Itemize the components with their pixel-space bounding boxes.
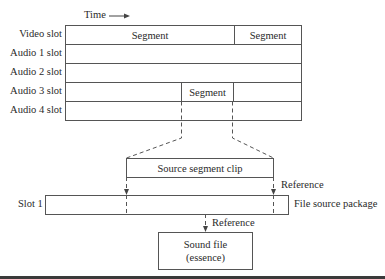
slot-label-audio-2: Audio 2 slot	[2, 67, 62, 78]
time-label: Time	[84, 10, 106, 21]
video-segment-2: Segment	[235, 26, 301, 44]
sound-file-title: Sound file	[184, 238, 227, 251]
audio-3-segment: Segment	[182, 83, 233, 101]
slot-label-audio-4: Audio 4 slot	[2, 105, 62, 116]
video-segment-1: Segment	[66, 26, 234, 44]
slot-label-video: Video slot	[2, 29, 62, 40]
sound-file-box: Sound file (essence)	[159, 233, 252, 269]
source-segment-clip: Source segment clip	[127, 159, 273, 177]
slot-1-label: Slot 1	[18, 199, 43, 210]
slot-label-audio-3: Audio 3 slot	[2, 86, 62, 97]
sound-file-subtitle: (essence)	[186, 251, 225, 264]
file-source-package-label: File source package	[294, 199, 377, 210]
reference-label-clip: Reference	[281, 180, 324, 191]
reference-label-sound: Reference	[212, 218, 255, 229]
slot-label-audio-1: Audio 1 slot	[2, 48, 62, 59]
